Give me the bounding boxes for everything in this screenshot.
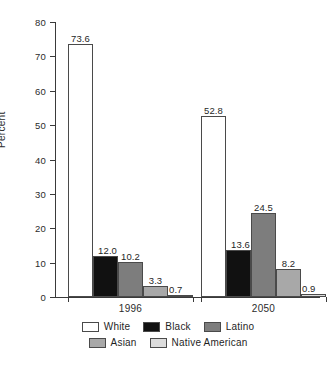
x-axis-category-label: 2050 xyxy=(252,303,275,314)
x-axis-tick xyxy=(201,297,202,302)
bar-value-label: 52.8 xyxy=(204,105,223,116)
y-axis-tick xyxy=(50,22,55,23)
legend-label: Black xyxy=(165,321,190,332)
bar-black-1996: 12.0 xyxy=(93,256,118,297)
bar-asian-2050: 8.2 xyxy=(276,269,301,297)
y-axis-tick xyxy=(50,297,55,298)
y-axis-tick xyxy=(50,160,55,161)
bar-value-label: 13.6 xyxy=(231,239,250,250)
legend-label: White xyxy=(104,321,131,332)
bar-value-label: 24.5 xyxy=(254,202,273,213)
bar-value-label: 0.7 xyxy=(169,284,183,295)
legend-label: Latino xyxy=(226,321,254,332)
y-axis-tick-label: 70 xyxy=(0,51,46,62)
x-axis-line xyxy=(55,297,320,298)
chart-legend: WhiteBlackLatino AsianNative American xyxy=(0,321,336,353)
bar-value-label: 12.0 xyxy=(98,245,117,256)
bar-value-label: 10.2 xyxy=(121,251,140,262)
y-axis-tick xyxy=(50,194,55,195)
legend-swatch-icon xyxy=(150,338,167,348)
bar-value-label: 8.2 xyxy=(282,258,296,269)
y-axis-tick-label: 60 xyxy=(0,85,46,96)
x-axis-tick xyxy=(193,297,194,302)
bar-chart: Percent 01020304050607080 73.612.010.23.… xyxy=(0,0,336,367)
x-axis-category-label: 1996 xyxy=(119,303,142,314)
legend-row-2: AsianNative American xyxy=(0,337,336,348)
bar-latino-1996: 10.2 xyxy=(118,262,143,297)
legend-item-asian[interactable]: Asian xyxy=(89,337,137,348)
y-axis-tick xyxy=(50,56,55,57)
legend-swatch-icon xyxy=(204,322,221,332)
legend-label: Native American xyxy=(172,337,248,348)
bar-black-2050: 13.6 xyxy=(226,250,251,297)
legend-item-black[interactable]: Black xyxy=(143,321,190,332)
y-axis-tick xyxy=(50,228,55,229)
legend-item-native-american[interactable]: Native American xyxy=(150,337,248,348)
x-axis-tick xyxy=(326,297,327,302)
y-axis-tick-label: 40 xyxy=(0,154,46,165)
bar-latino-2050: 24.5 xyxy=(251,213,276,297)
legend-swatch-icon xyxy=(89,338,106,348)
bar-white-2050: 52.8 xyxy=(201,116,226,298)
bar-value-label: 3.3 xyxy=(149,275,163,286)
y-axis-tick xyxy=(50,125,55,126)
legend-item-white[interactable]: White xyxy=(82,321,131,332)
bar-white-1996: 73.6 xyxy=(68,44,93,297)
bar-native-american-2050: 0.9 xyxy=(301,294,326,297)
legend-swatch-icon xyxy=(82,322,99,332)
legend-label: Asian xyxy=(111,337,137,348)
bar-asian-1996: 3.3 xyxy=(143,286,168,297)
y-axis-tick-label: 50 xyxy=(0,120,46,131)
bar-value-label: 73.6 xyxy=(71,33,90,44)
y-axis-tick-label: 30 xyxy=(0,188,46,199)
legend-item-latino[interactable]: Latino xyxy=(204,321,254,332)
legend-row-1: WhiteBlackLatino xyxy=(0,321,336,332)
plot-area: 73.612.010.23.30.752.813.624.58.20.9 xyxy=(56,22,320,297)
y-axis-tick-label: 10 xyxy=(0,257,46,268)
y-axis-tick-label: 80 xyxy=(0,17,46,28)
bar-native-american-1996: 0.7 xyxy=(168,295,193,297)
y-axis-tick-label: 0 xyxy=(0,292,46,303)
y-axis-tick xyxy=(50,91,55,92)
bar-value-label: 0.9 xyxy=(302,283,316,294)
y-axis-tick xyxy=(50,263,55,264)
x-axis-tick xyxy=(68,297,69,302)
legend-swatch-icon xyxy=(143,322,160,332)
y-axis-tick-label: 20 xyxy=(0,223,46,234)
